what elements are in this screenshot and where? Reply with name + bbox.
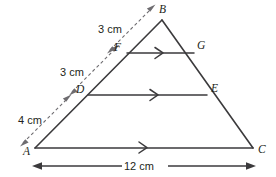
dimension-fb: 3 cm	[98, 5, 156, 54]
dimension-ac-arrow-end	[246, 162, 256, 169]
point-label-d: D	[75, 83, 85, 95]
point-label-f: F	[113, 41, 122, 53]
dimension-ac-label: 12 cm	[124, 160, 154, 172]
point-label-g: G	[197, 39, 206, 51]
dimension-ac: 12 cm	[32, 160, 256, 172]
point-label-e: E	[210, 82, 218, 94]
vertex-label-a: A	[22, 145, 31, 157]
triangle-outline	[35, 20, 253, 148]
segment-ab	[35, 20, 162, 148]
dimension-fb-label: 3 cm	[98, 23, 122, 35]
dimension-ac-arrow-start	[32, 162, 42, 169]
vertex-label-c: C	[258, 143, 266, 155]
geometry-diagram: 4 cm 3 cm 3 cm 12 cm A B C	[0, 0, 276, 177]
dimension-ad-arrow-end	[63, 95, 72, 102]
triangle-figure-svg: 4 cm 3 cm 3 cm 12 cm A B C	[0, 0, 276, 177]
point-labels: A B C D E F G	[22, 3, 266, 157]
vertex-label-b: B	[159, 3, 166, 15]
segment-bc	[162, 20, 253, 148]
dimension-ad-label: 4 cm	[18, 114, 42, 126]
parallel-marks	[139, 48, 163, 154]
dimension-df: 3 cm	[60, 45, 120, 96]
dimension-fb-arrow-end	[147, 5, 156, 12]
dimension-df-label: 3 cm	[60, 66, 84, 78]
